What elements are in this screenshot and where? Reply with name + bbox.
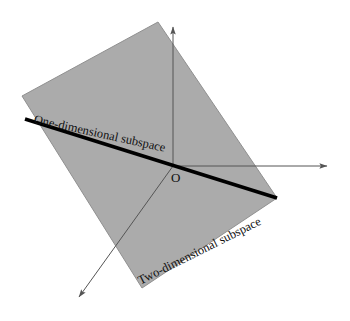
two-dimensional-subspace-plane bbox=[22, 22, 277, 288]
subspace-diagram: One-dimensional subspace Two-dimensional… bbox=[0, 0, 350, 321]
diagram-canvas bbox=[0, 0, 350, 321]
